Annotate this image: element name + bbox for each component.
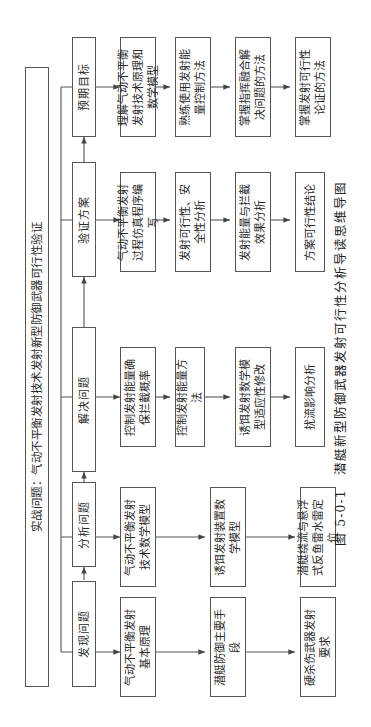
- stage-label: 验证方案: [77, 196, 92, 244]
- node-analyze-1: 气动不平衡发射技术数学模型: [120, 487, 156, 587]
- figure-title: 潜艇新型防御武器发射可行性分析导读思维导图: [333, 181, 348, 475]
- node-verify-1: 气动不平衡发射过程仿真程序编写: [120, 172, 156, 272]
- stage-heading-verify: 验证方案: [72, 162, 96, 277]
- node-verify-2: 发射可行性、安全性分析: [175, 172, 211, 272]
- node-solve-3: 诱饵发射数学模型适应性修改: [235, 347, 271, 447]
- stage-heading-discover: 发现问题: [72, 581, 96, 687]
- node-verify-3: 发射能量与拦截效果分析: [235, 172, 271, 272]
- stage-heading-goals: 预期目标: [72, 37, 96, 137]
- node-solve-2: 控制发射能量方法: [175, 347, 205, 447]
- node-solve-1: 控制发射能量确保拦截概率: [120, 347, 156, 447]
- node-goals-2: 熟练使用发射能量控制方法: [175, 37, 211, 137]
- node-discover-2: 潜艇防御主要手段: [210, 597, 246, 697]
- node-goals-4: 掌握发射可行性论证的方法: [295, 37, 331, 137]
- node-discover-1: 气动不平衡发射基本原理: [120, 597, 156, 697]
- stage-label: 分析问题: [77, 501, 92, 549]
- figure-number: 图 5-0-1: [333, 489, 348, 545]
- stage-label: 预期目标: [77, 63, 92, 111]
- mind-map-diagram: 实战问题：气动不平衡发射技术发射新型防御武器可行性验证 发现问题 分析问题 解决…: [0, 0, 371, 727]
- stage-heading-solve: 解决问题: [72, 327, 96, 472]
- node-analyze-2: 诱饵发射装置数学模型: [210, 487, 246, 587]
- node-goals-3: 掌握指挥融合解决问题的方法: [235, 37, 271, 137]
- stage-label: 发现问题: [77, 610, 92, 658]
- stage-label: 解决问题: [77, 376, 92, 424]
- top-banner: 实战问题：气动不平衡发射技术发射新型防御武器可行性验证: [25, 67, 49, 687]
- stage-heading-analyze: 分析问题: [72, 482, 96, 567]
- node-verify-4: 方案可行性结论: [295, 172, 325, 272]
- node-solve-4: 扰流影响分析: [295, 347, 325, 447]
- banner-text: 实战问题：气动不平衡发射技术发射新型防御武器可行性验证: [30, 222, 45, 533]
- node-goals-1: 理解气动不平衡发射技术原理和数学模型: [120, 37, 156, 137]
- figure-caption: 图 5-0-1潜艇新型防御武器发射可行性分析导读思维导图: [330, 0, 349, 727]
